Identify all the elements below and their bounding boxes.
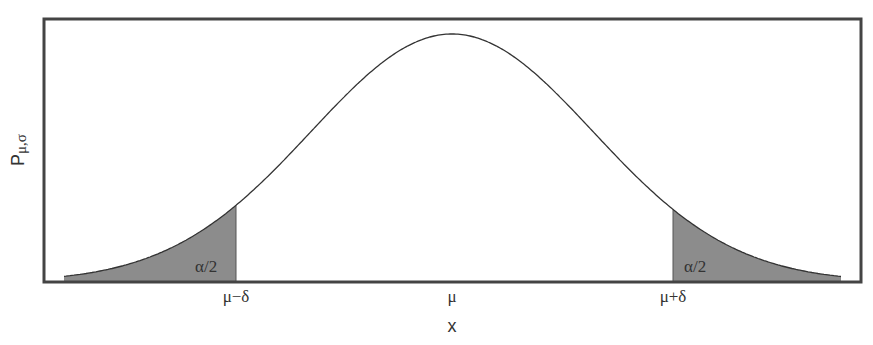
- left-tail-label: α/2: [195, 257, 217, 277]
- gaussian-curve: [64, 34, 841, 277]
- x-axis-label: x: [448, 316, 457, 337]
- tick-mu-plus-delta: μ+δ: [660, 287, 687, 307]
- tick-mu-minus-delta: μ−δ: [223, 287, 250, 307]
- tick-mu: μ: [447, 287, 456, 307]
- plot-frame: [44, 19, 861, 282]
- normal-distribution-diagram: [0, 0, 873, 345]
- right-tail-label: α/2: [684, 257, 706, 277]
- y-axis-label: Pμ,σ: [8, 134, 30, 166]
